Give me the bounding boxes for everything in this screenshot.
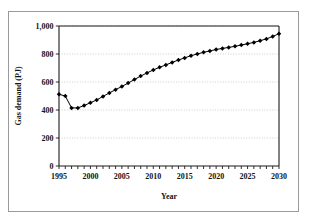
data-point-marker (120, 84, 125, 89)
data-point-marker (214, 47, 219, 52)
data-point-marker (132, 77, 137, 82)
data-point-marker (252, 40, 256, 45)
data-point-marker (176, 58, 181, 63)
x-tick-label: 2020 (208, 172, 224, 181)
data-point-marker (57, 92, 62, 97)
x-axis-ticks: 19952000200520102015202020252030 (51, 172, 287, 181)
y-tick-label: 200 (42, 134, 54, 143)
figure-frame: 02004006008001,0001995200020052010201520… (8, 11, 299, 212)
data-point-marker (101, 94, 106, 99)
y-tick-label: 800 (42, 50, 54, 59)
y-tick-label: 0 (50, 162, 54, 171)
x-tick-label: 1995 (51, 172, 67, 181)
y-axis-ticks: 02004006008001,000 (36, 22, 60, 171)
data-point-marker (277, 31, 282, 36)
data-point-marker (220, 46, 225, 51)
data-point-marker (107, 91, 112, 96)
gas-demand-line-chart: 02004006008001,0001995200020052010201520… (9, 12, 298, 211)
x-tick-label: 2015 (177, 172, 193, 181)
x-tick-label: 2025 (240, 172, 256, 181)
x-tick-label: 2000 (82, 172, 98, 181)
data-point-marker (151, 68, 156, 73)
data-point-marker (245, 42, 250, 47)
data-point-marker (88, 100, 93, 105)
data-point-marker (258, 38, 263, 43)
y-tick-label: 600 (42, 78, 54, 87)
data-point-marker (113, 87, 118, 92)
data-point-marker (138, 74, 143, 79)
data-point-marker (94, 98, 99, 103)
data-point-marker (270, 34, 275, 39)
data-point-marker (226, 45, 231, 50)
y-tick-label: 1,000 (36, 22, 54, 31)
data-point-marker (76, 106, 81, 111)
x-tick-label: 2005 (114, 172, 130, 181)
data-point-marker (195, 52, 200, 57)
data-point-marker (233, 44, 238, 49)
data-point-marker (239, 43, 244, 48)
y-tick-label: 400 (42, 106, 54, 115)
data-point-marker (208, 49, 213, 54)
axes (59, 26, 279, 166)
y-axis-title: Gas demand (PJ) (14, 66, 23, 125)
data-series-gas-demand (57, 31, 282, 110)
data-point-marker (82, 103, 87, 108)
data-point-marker (170, 60, 175, 65)
gridlines (59, 26, 279, 138)
data-point-marker (157, 65, 162, 70)
data-point-marker (63, 94, 68, 99)
x-tick-label: 2010 (145, 172, 161, 181)
data-point-marker (145, 71, 150, 76)
data-point-marker (182, 56, 187, 61)
data-point-marker (126, 81, 131, 86)
data-point-marker (164, 63, 169, 68)
x-axis-title: Year (161, 192, 177, 201)
caption-strip (0, 0, 311, 9)
data-point-marker (69, 106, 74, 111)
x-tick-label: 2030 (271, 172, 287, 181)
data-point-marker (264, 37, 269, 42)
